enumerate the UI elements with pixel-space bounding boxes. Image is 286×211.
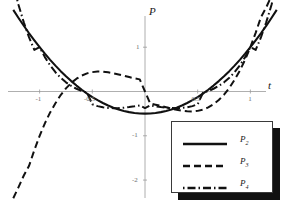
chart-figure: P t -1-0.50.511-1-2 P2P3P4	[0, 0, 286, 211]
x-tick-label: -0.5	[84, 96, 95, 103]
legend-swatch-P4	[182, 179, 228, 189]
y-tick-label: -1	[132, 132, 138, 139]
legend-label-P2: P2	[240, 134, 249, 146]
legend-row: P2	[172, 128, 272, 152]
y-tick-label: -2	[132, 177, 138, 184]
x-tick-label: -1	[35, 96, 41, 103]
x-tick-label: 0.5	[191, 96, 200, 103]
legend-row: P4	[172, 172, 272, 196]
legend-label-P4: P4	[240, 178, 249, 190]
legend-label-P3: P3	[240, 156, 249, 168]
x-axis-label: t	[268, 80, 271, 91]
y-axis-label: P	[149, 6, 156, 17]
y-tick-label: 1	[136, 44, 140, 51]
legend-box: P2P3P4	[171, 121, 273, 193]
legend-swatch-P2	[182, 135, 228, 145]
legend-row: P3	[172, 150, 272, 174]
x-tick-label: 1	[248, 96, 252, 103]
legend-swatch-P3	[182, 157, 228, 167]
